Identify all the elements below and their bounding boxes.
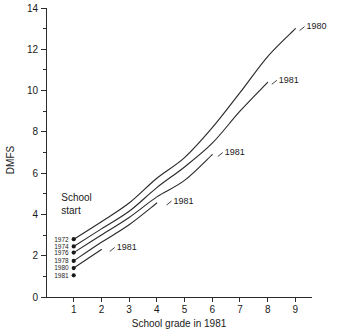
y-tick-label-14: 14 (27, 3, 39, 14)
chart-canvas: 02468101214123456789School grade in 1981… (0, 0, 338, 331)
x-tick-label-8: 8 (265, 304, 271, 315)
y-tick-label-4: 4 (32, 209, 38, 220)
start-year-label-1981: 1981 (54, 272, 69, 279)
x-tick-label-5: 5 (182, 304, 188, 315)
start-dot-1978 (72, 259, 76, 263)
x-tick-label-9: 9 (293, 304, 299, 315)
end-label-3-1981: 1981 (174, 196, 194, 206)
series-line-1974 (74, 82, 268, 246)
start-dot-1981 (72, 273, 76, 277)
y-tick-label-12: 12 (27, 44, 39, 55)
end-label-leader-3 (167, 201, 172, 205)
x-tick-label-2: 2 (99, 304, 105, 315)
start-year-label-1980: 1980 (54, 264, 69, 271)
series-line-1972 (74, 29, 296, 240)
start-dot-1976 (72, 251, 76, 255)
x-tick-label-6: 6 (209, 304, 215, 315)
start-dot-1974 (72, 244, 76, 248)
start-year-label-1976: 1976 (54, 249, 69, 256)
end-label-1-1981: 1981 (279, 75, 299, 85)
annotation-1: start (61, 205, 81, 216)
end-label-4-1981: 1981 (117, 242, 137, 252)
end-label-2-1981: 1981 (225, 147, 245, 157)
y-axis-title: DMFS (5, 146, 16, 175)
end-label-leader-4 (110, 247, 115, 251)
x-tick-label-3: 3 (126, 304, 132, 315)
x-axis-title: School grade in 1981 (132, 318, 227, 329)
y-tick-label-0: 0 (32, 292, 38, 303)
dmfs-school-grade-chart: 02468101214123456789School grade in 1981… (0, 0, 338, 331)
series-line-1980 (74, 250, 102, 269)
end-label-0-1980: 1980 (307, 21, 327, 31)
start-year-label-1978: 1978 (54, 257, 69, 264)
annotation-0: School (61, 192, 92, 203)
x-tick-label-4: 4 (154, 304, 160, 315)
x-tick-label-7: 7 (237, 304, 243, 315)
y-tick-label-8: 8 (32, 126, 38, 137)
y-tick-label-6: 6 (32, 168, 38, 179)
end-label-leader-0 (300, 27, 305, 31)
y-tick-label-2: 2 (32, 250, 38, 261)
start-dot-1972 (72, 237, 76, 241)
end-label-leader-2 (218, 153, 223, 157)
end-label-leader-1 (272, 80, 277, 84)
start-year-label-1972: 1972 (54, 236, 69, 243)
x-tick-label-1: 1 (71, 304, 77, 315)
y-tick-label-10: 10 (27, 85, 39, 96)
start-dot-1980 (72, 266, 76, 270)
